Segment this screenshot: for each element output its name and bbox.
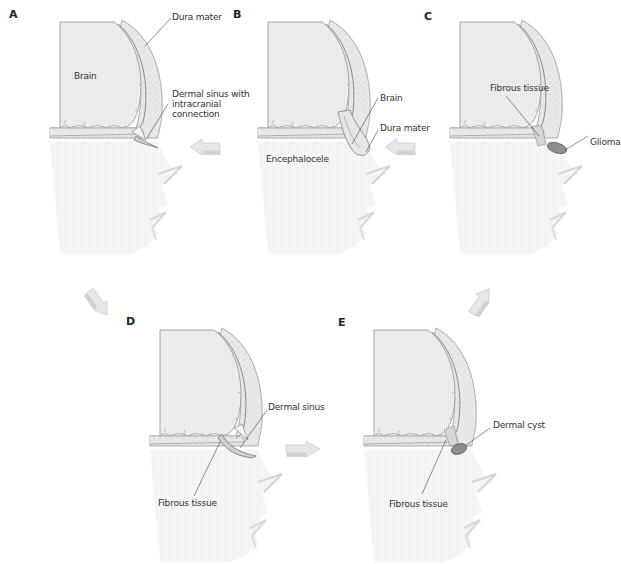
label-encephalocele-b: Encephalocele — [266, 154, 329, 164]
panel-e: E Dermal cyst Fibrous tissue — [320, 310, 550, 560]
arrow-b-to-c-icon — [383, 136, 419, 160]
head-illustration-c — [410, 8, 621, 258]
label-dermal-sinus-d: Dermal sinus — [268, 402, 325, 412]
label-dura-mater-a: Dura mater — [172, 12, 222, 22]
panel-c: C Fibrous tissue Glioma — [410, 8, 621, 258]
panel-d: D Dermal sinus Fibrous tissue — [110, 310, 320, 560]
label-glioma-c: Glioma — [590, 137, 621, 147]
head-illustration-b — [230, 8, 430, 258]
label-fibrous-tissue-e: Fibrous tissue — [389, 499, 448, 509]
label-brain-a: Brain — [74, 71, 97, 81]
head-illustration-a — [20, 8, 220, 258]
arrow-e-to-c-icon — [462, 282, 498, 322]
label-fibrous-tissue-c: Fibrous tissue — [490, 83, 549, 93]
head-illustration-d — [110, 310, 320, 560]
label-fibrous-tissue-d: Fibrous tissue — [158, 498, 217, 508]
panel-letter-a: A — [9, 8, 18, 21]
arrow-d-to-e-icon — [284, 438, 324, 462]
arrow-a-to-d-icon — [80, 282, 116, 322]
arrow-a-to-b-icon — [188, 136, 224, 160]
label-dermal-cyst-e: Dermal cyst — [493, 420, 545, 430]
label-brain-b: Brain — [380, 93, 403, 103]
head-illustration-e — [320, 310, 550, 560]
panel-a: A Dura mater Brain Dermal sinus with int… — [20, 8, 220, 258]
panel-b: B Brain Dura mater Encephalocele — [230, 8, 430, 258]
